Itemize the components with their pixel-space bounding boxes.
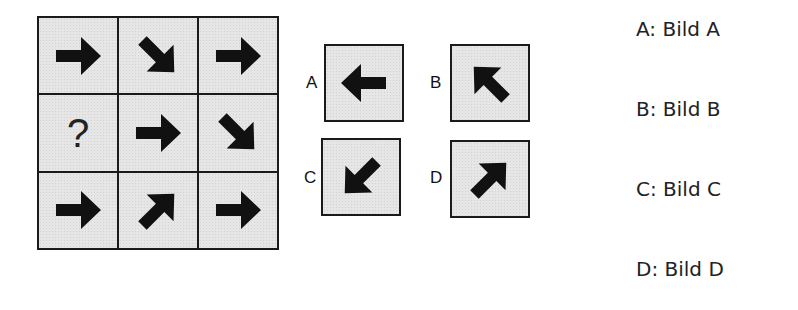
option-a-letter: A — [306, 73, 317, 93]
grid-cell-r3c2 — [119, 173, 197, 248]
option-b-letter: B — [430, 73, 441, 93]
option-c-box[interactable] — [321, 138, 401, 216]
arrow-down-left-icon — [323, 139, 399, 215]
option-d-letter: D — [430, 168, 442, 188]
grid-cell-r1c3 — [199, 18, 277, 93]
answer-b[interactable]: B: Bild B — [636, 97, 720, 121]
option-d-box[interactable] — [450, 140, 530, 218]
arrow-left-icon — [337, 56, 391, 110]
grid-cell-r3c1 — [39, 173, 117, 248]
option-c-letter: C — [304, 168, 316, 188]
arrow-down-right-icon — [200, 95, 276, 171]
arrow-right-icon — [211, 183, 265, 237]
arrow-up-left-icon — [452, 45, 528, 121]
arrow-right-icon — [211, 29, 265, 83]
puzzle-grid: ? — [37, 16, 279, 250]
grid-cell-r2c1: ? — [39, 95, 117, 170]
grid-cell-r1c1 — [39, 18, 117, 93]
arrow-up-right-icon — [452, 141, 528, 217]
arrow-right-icon — [51, 29, 105, 83]
option-b-box[interactable] — [450, 44, 530, 122]
grid-cell-r3c3 — [199, 173, 277, 248]
answer-c[interactable]: C: Bild C — [636, 177, 721, 201]
arrow-right-icon — [131, 106, 185, 160]
answer-a[interactable]: A: Bild A — [636, 17, 720, 41]
grid-cell-r2c2 — [119, 95, 197, 170]
arrow-down-right-icon — [120, 17, 196, 93]
grid-cell-r2c3 — [199, 95, 277, 170]
arrow-right-icon — [51, 183, 105, 237]
missing-question-mark: ? — [67, 113, 89, 153]
answer-d[interactable]: D: Bild D — [636, 257, 724, 281]
option-a-box[interactable] — [324, 44, 404, 122]
grid-cell-r1c2 — [119, 18, 197, 93]
arrow-up-right-icon — [120, 172, 196, 248]
